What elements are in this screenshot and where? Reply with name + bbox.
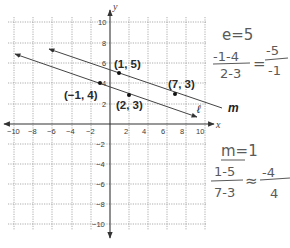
svg-text:−8: −8 (28, 127, 37, 136)
svg-text:−4: −4 (96, 160, 105, 169)
svg-text:≈: ≈ (245, 172, 258, 190)
svg-text:8: 8 (102, 39, 106, 48)
svg-text:4: 4 (102, 79, 106, 88)
point-1-5 (117, 71, 121, 75)
line-l-label: ℓ (196, 103, 201, 115)
svg-text:4: 4 (270, 186, 278, 201)
svg-text:1-5: 1-5 (214, 164, 235, 179)
svg-text:−6: −6 (96, 180, 105, 189)
handwritten-note-slope-m: m=1 1-5 7-3 ≈ -4 4 (211, 142, 290, 201)
x-tick-labels: −10 −8 −6 −4 −2 2 4 6 8 10 (7, 127, 204, 136)
svg-text:7-3: 7-3 (214, 185, 235, 200)
y-axis-label: y (112, 1, 118, 12)
svg-text:−2: −2 (86, 127, 95, 136)
coordinate-graph: x y −10 −8 −6 −4 −2 2 4 6 8 10 10 8 6 4 … (0, 0, 290, 248)
svg-text:−10: −10 (7, 127, 20, 136)
svg-text:−8: −8 (96, 200, 105, 209)
svg-text:−6: −6 (47, 127, 56, 136)
svg-text:2: 2 (124, 127, 128, 136)
point-label-1-5: (1, 5) (114, 58, 141, 70)
svg-text:-4: -4 (262, 165, 275, 180)
svg-text:2-3: 2-3 (220, 66, 241, 81)
svg-text:−2: −2 (96, 140, 105, 149)
point-7-3 (173, 92, 177, 96)
x-axis-label: x (215, 119, 221, 130)
point-label-7-3: (7, 3) (168, 78, 195, 90)
svg-text:10: 10 (98, 18, 106, 27)
point-neg1-4 (98, 81, 102, 85)
svg-text:6: 6 (161, 127, 165, 136)
svg-text:-1-4: -1-4 (213, 49, 239, 64)
svg-text:2: 2 (102, 100, 106, 109)
line-m-label: m (228, 101, 239, 115)
svg-text:-1: -1 (268, 63, 281, 78)
handwritten-note-slope-l: e=5 -1-4 2-3 = -5 -1 (213, 26, 288, 81)
point-label-2-3: (2, 3) (116, 99, 143, 111)
svg-text:e=5: e=5 (222, 26, 253, 44)
point-label-neg1-4: (−1, 4) (64, 89, 98, 101)
svg-text:m=1: m=1 (221, 142, 258, 160)
svg-text:−10: −10 (92, 220, 105, 229)
svg-text:8: 8 (180, 127, 184, 136)
svg-text:10: 10 (196, 127, 204, 136)
svg-text:4: 4 (142, 127, 146, 136)
svg-text:=: = (253, 55, 266, 73)
svg-text:−4: −4 (66, 127, 75, 136)
svg-text:6: 6 (102, 59, 106, 68)
point-2-3 (127, 93, 131, 97)
svg-text:-5: -5 (266, 43, 279, 58)
